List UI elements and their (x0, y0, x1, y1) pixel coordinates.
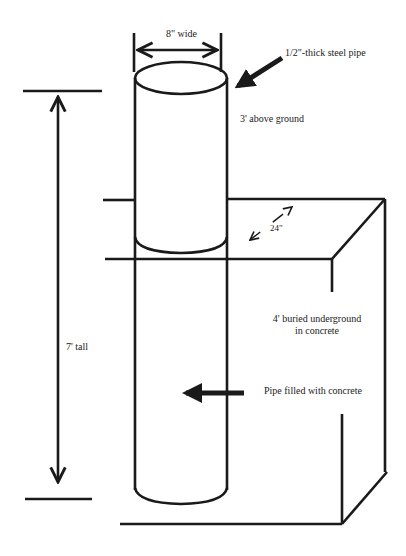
above-ground-label: 3' above ground (240, 113, 304, 125)
buried-label: 4' buried underground in concrete (262, 313, 372, 337)
height-dimension (23, 91, 102, 499)
buried-label-line2: in concrete (262, 325, 372, 337)
steel-pipe (135, 62, 227, 504)
width-label: 8" wide (166, 28, 197, 40)
pipe-filled-label: Pipe filled with concrete (264, 385, 362, 397)
pipe-thickness-label: 1/2"-thick steel pipe (285, 47, 366, 59)
buried-label-line1: 4' buried underground (262, 313, 372, 325)
total-height-label: 7' tall (66, 341, 88, 353)
depth-label: 24" (270, 222, 283, 234)
pipe-thickness-pointer (238, 58, 282, 86)
bollard-diagram (0, 0, 406, 556)
